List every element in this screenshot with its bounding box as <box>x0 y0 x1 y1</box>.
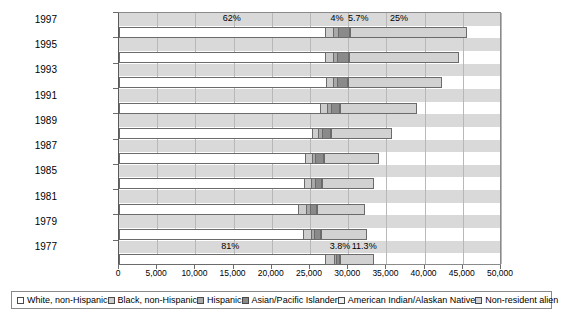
bar-1981[interactable] <box>119 204 365 215</box>
chart-container: 1997199519931991198919871985198119791977… <box>0 0 563 319</box>
segment-non-resident-alien[interactable] <box>349 52 459 63</box>
legend-swatch-black-non-hispanic <box>108 297 115 304</box>
annotation-113-1977: 11.3% <box>352 241 377 251</box>
segment-asian-pacific-islander[interactable] <box>315 178 322 189</box>
segment-non-resident-alien[interactable] <box>348 77 442 88</box>
segment-asian-pacific-islander[interactable] <box>331 103 340 114</box>
segment-non-resident-alien[interactable] <box>324 153 379 164</box>
segment-asian-pacific-islander[interactable] <box>322 128 330 139</box>
bar-1985[interactable] <box>119 178 374 189</box>
segment-black-non-hispanic[interactable] <box>303 229 311 240</box>
segment-non-resident-alien[interactable] <box>350 27 467 38</box>
segment-white-non-hispanic[interactable] <box>119 77 326 88</box>
gridline <box>463 13 464 264</box>
bar-1997[interactable] <box>119 27 467 38</box>
segment-white-non-hispanic[interactable] <box>119 229 303 240</box>
legend-label-non-resident-alien: Non-resident alien <box>485 295 558 305</box>
segment-non-resident-alien[interactable] <box>322 178 374 189</box>
legend-item-asian-pacific-islander[interactable]: Asian/Pacific Islander <box>242 295 338 305</box>
legend-swatch-white-non-hispanic <box>17 297 24 304</box>
chart-legend: White, non-HispanicBlack, non-HispanicHi… <box>11 291 552 309</box>
x-axis-tick-mark <box>500 265 501 269</box>
x-axis-tick-mark <box>462 265 463 269</box>
segment-black-non-hispanic[interactable] <box>312 128 319 139</box>
x-axis-tick-mark <box>347 265 348 269</box>
segment-black-non-hispanic[interactable] <box>304 178 311 189</box>
y-axis-tick-label-1993: 1993 <box>11 64 57 75</box>
y-axis-tick-label-1977: 1977 <box>11 241 57 252</box>
bar-1987[interactable] <box>119 153 379 164</box>
legend-item-black-non-hispanic[interactable]: Black, non-Hispanic <box>108 295 198 305</box>
legend-swatch-american-indian-alaskan-native <box>338 297 345 304</box>
segment-black-non-hispanic[interactable] <box>325 254 335 265</box>
legend-label-asian-pacific-islander: Asian/Pacific Islander <box>252 295 338 305</box>
legend-label-american-indian-alaskan-native: American Indian/Alaskan Native <box>348 295 476 305</box>
bar-1993[interactable] <box>119 77 442 88</box>
segment-white-non-hispanic[interactable] <box>119 128 312 139</box>
x-axis-tick-mark <box>385 265 386 269</box>
segment-asian-pacific-islander[interactable] <box>310 204 317 215</box>
annotation-38-1977: 3.8% <box>330 241 351 251</box>
gridline <box>425 13 426 264</box>
segment-white-non-hispanic[interactable] <box>119 103 320 114</box>
segment-black-non-hispanic[interactable] <box>326 77 333 88</box>
y-axis-tick-label-1995: 1995 <box>11 39 57 50</box>
segment-black-non-hispanic[interactable] <box>325 27 333 38</box>
segment-non-resident-alien[interactable] <box>321 229 367 240</box>
bar-1991[interactable] <box>119 103 417 114</box>
legend-swatch-asian-pacific-islander <box>242 297 249 304</box>
y-axis-tick-label-1985: 1985 <box>11 165 57 176</box>
annotation-25-1997: 25% <box>390 13 408 23</box>
legend-item-hispanic[interactable]: Hispanic <box>197 295 242 305</box>
y-axis-tick-label-1991: 1991 <box>11 90 57 101</box>
legend-label-white-non-hispanic: White, non-Hispanic <box>27 295 108 305</box>
legend-item-white-non-hispanic[interactable]: White, non-Hispanic <box>17 295 108 305</box>
bar-1995[interactable] <box>119 52 459 63</box>
annotation-4-1997: 4% <box>330 13 343 23</box>
x-axis-tick-mark <box>309 265 310 269</box>
x-axis-tick-mark <box>424 265 425 269</box>
y-axis-tick-label-1989: 1989 <box>11 115 57 126</box>
y-axis-tick-label-1979: 1979 <box>11 216 57 227</box>
segment-white-non-hispanic[interactable] <box>119 27 325 38</box>
segment-white-non-hispanic[interactable] <box>119 178 304 189</box>
segment-asian-pacific-islander[interactable] <box>337 77 347 88</box>
legend-swatch-hispanic <box>197 297 204 304</box>
segment-black-non-hispanic[interactable] <box>298 204 306 215</box>
segment-black-non-hispanic[interactable] <box>325 52 333 63</box>
segment-non-resident-alien[interactable] <box>317 204 365 215</box>
segment-white-non-hispanic[interactable] <box>119 204 298 215</box>
segment-non-resident-alien[interactable] <box>340 254 374 265</box>
legend-item-non-resident-alien[interactable]: Non-resident alien <box>475 295 558 305</box>
x-axis-tick-label-50000: 50,000 <box>470 268 530 278</box>
y-axis-tick-label-1987: 1987 <box>11 140 57 151</box>
segment-asian-pacific-islander[interactable] <box>315 153 322 164</box>
bar-1979[interactable] <box>119 229 367 240</box>
annotation-62-1997: 62% <box>223 13 241 23</box>
segment-white-non-hispanic[interactable] <box>119 254 325 265</box>
segment-asian-pacific-islander[interactable] <box>337 52 348 63</box>
gridline <box>501 13 502 264</box>
legend-item-american-indian-alaskan-native[interactable]: American Indian/Alaskan Native <box>338 295 476 305</box>
segment-asian-pacific-islander[interactable] <box>338 27 349 38</box>
y-axis-tick-label-1997: 1997 <box>11 14 57 25</box>
legend-label-black-non-hispanic: Black, non-Hispanic <box>118 295 198 305</box>
plot-area <box>118 12 501 265</box>
x-axis-tick-mark <box>118 265 119 269</box>
segment-white-non-hispanic[interactable] <box>119 153 305 164</box>
x-axis-tick-mark <box>156 265 157 269</box>
segment-non-resident-alien[interactable] <box>340 103 416 114</box>
x-axis-tick-mark <box>233 265 234 269</box>
x-axis-tick-mark <box>194 265 195 269</box>
legend-label-hispanic: Hispanic <box>207 295 242 305</box>
segment-black-non-hispanic[interactable] <box>320 103 327 114</box>
bar-1977[interactable] <box>119 254 374 265</box>
annotation-57-1997: 5.7% <box>348 13 369 23</box>
bar-1989[interactable] <box>119 128 392 139</box>
annotation-81-1977: 81% <box>221 241 239 251</box>
x-axis-tick-mark <box>271 265 272 269</box>
segment-non-resident-alien[interactable] <box>331 128 392 139</box>
y-axis-tick-label-1981: 1981 <box>11 191 57 202</box>
segment-white-non-hispanic[interactable] <box>119 52 325 63</box>
legend-swatch-non-resident-alien <box>475 297 482 304</box>
